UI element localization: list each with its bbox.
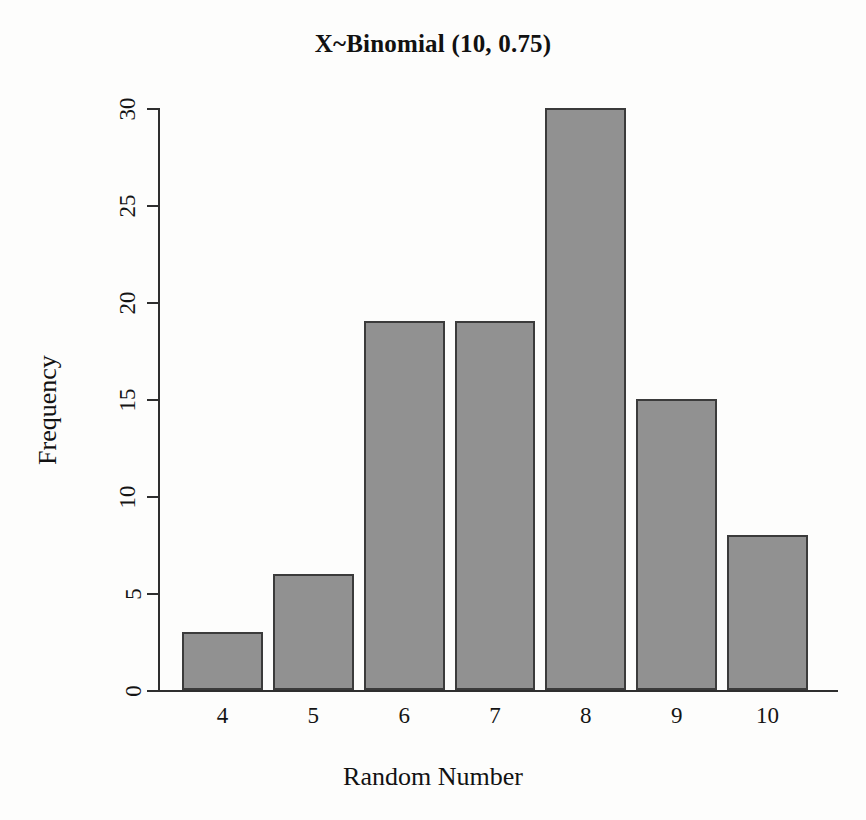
x-axis-tick-label: 4 — [182, 704, 263, 727]
bar — [273, 574, 354, 690]
bar — [636, 399, 717, 690]
x-axis-tick-label: 10 — [727, 704, 808, 727]
plot-area: 051015202530 45678910 — [158, 100, 838, 690]
chart-figure: X~Binomial (10, 0.75) Frequency 05101520… — [0, 0, 866, 820]
y-axis-tick: 20 — [147, 302, 158, 304]
y-axis-title-label: Frequency — [33, 355, 63, 465]
y-axis-tick-label: 5 — [122, 588, 145, 600]
x-axis-tick-label: 8 — [545, 704, 626, 727]
x-axis-tick-label: 7 — [455, 704, 536, 727]
bar — [364, 321, 445, 690]
y-axis-tick-label: 10 — [116, 486, 139, 509]
x-axis-line — [158, 690, 838, 692]
y-axis-title: Frequency — [18, 0, 78, 820]
y-axis-tick-label: 0 — [122, 685, 145, 697]
y-axis-tick-label: 30 — [116, 98, 139, 121]
y-axis-tick: 30 — [147, 108, 158, 110]
x-axis-tick-label: 9 — [636, 704, 717, 727]
x-axis-title: Random Number — [0, 762, 866, 792]
bar — [182, 632, 263, 690]
y-axis-tick-label: 25 — [116, 195, 139, 218]
chart-title: X~Binomial (10, 0.75) — [0, 30, 866, 58]
y-axis-tick-label: 20 — [116, 292, 139, 315]
x-axis-tick-label: 5 — [273, 704, 354, 727]
y-axis-tick: 15 — [147, 399, 158, 401]
y-axis-tick: 0 — [147, 690, 158, 692]
bar — [545, 108, 626, 690]
y-axis-tick: 5 — [147, 593, 158, 595]
bar — [455, 321, 536, 690]
y-axis-tick: 25 — [147, 205, 158, 207]
y-axis-line — [158, 108, 160, 690]
x-axis-tick-label: 6 — [364, 704, 445, 727]
y-axis-tick-label: 15 — [116, 389, 139, 412]
bar — [727, 535, 808, 690]
y-axis-tick: 10 — [147, 496, 158, 498]
